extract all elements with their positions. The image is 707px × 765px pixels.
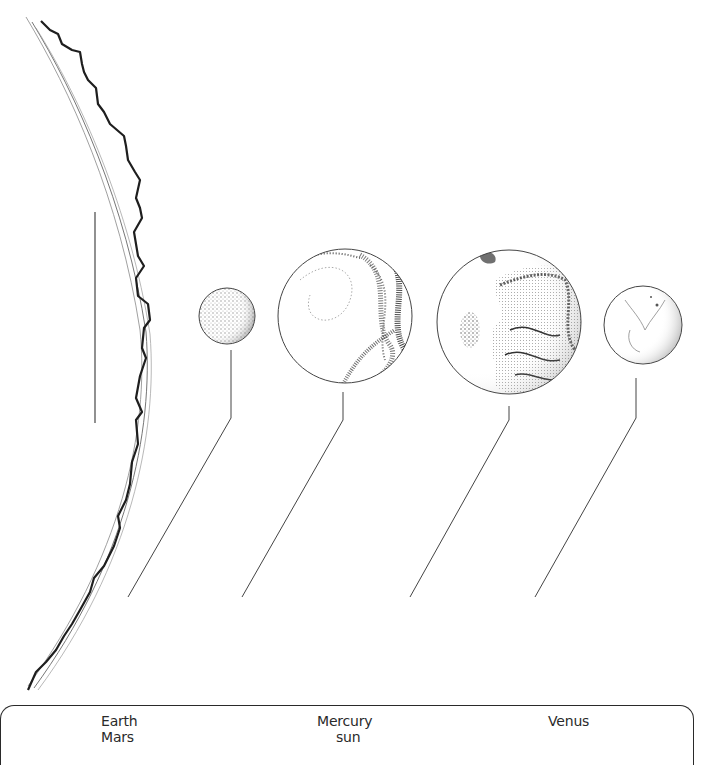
planet-4-leader-line <box>535 378 636 597</box>
planet-1 <box>128 288 255 597</box>
planet-2-leader-line <box>242 392 343 597</box>
word-earth: Earth <box>101 713 138 729</box>
swirled-planet-icon <box>278 249 412 383</box>
word-sun: sun <box>336 729 360 745</box>
word-mars: Mars <box>101 729 134 745</box>
word-venus: Venus <box>548 713 589 729</box>
planet-3 <box>410 250 585 597</box>
word-mercury: Mercury <box>317 713 372 729</box>
planet-1-leader-line <box>128 350 231 597</box>
planet-3-leader-line <box>410 406 509 597</box>
planet-2 <box>242 249 412 597</box>
